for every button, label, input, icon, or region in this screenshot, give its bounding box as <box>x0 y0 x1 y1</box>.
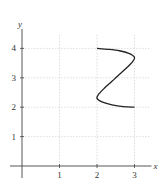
x-tick-label: 1 <box>57 170 62 180</box>
ticks: 1231234 <box>12 43 138 180</box>
x-tick-label: 3 <box>132 170 137 180</box>
y-tick-label: 2 <box>12 102 17 112</box>
y-tick-label: 3 <box>12 73 17 83</box>
x-axis-label: x <box>153 161 158 171</box>
chart: xy 1231234 <box>0 0 164 192</box>
axes: xy <box>10 19 158 178</box>
y-axis-label: y <box>17 19 22 29</box>
series <box>97 48 135 107</box>
x-tick-label: 2 <box>95 170 100 180</box>
y-tick-label: 1 <box>12 132 17 142</box>
series-line <box>97 48 135 107</box>
y-tick-label: 4 <box>12 43 17 53</box>
